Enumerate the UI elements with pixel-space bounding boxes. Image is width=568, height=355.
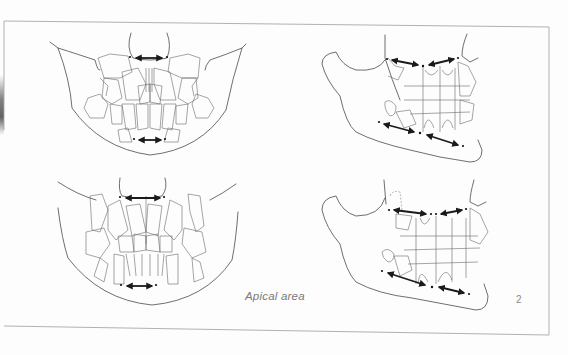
panel-top-left-frontal <box>50 33 246 155</box>
figure-frame <box>4 21 549 335</box>
figure-caption: Apical area <box>245 290 305 302</box>
figure-number: 2 <box>516 294 522 305</box>
panel-top-right-lateral <box>322 34 482 162</box>
panel-bottom-left-frontal <box>58 178 238 305</box>
textbook-page: Apical area 2 <box>0 0 568 355</box>
panel-bottom-right-lateral <box>322 180 488 310</box>
